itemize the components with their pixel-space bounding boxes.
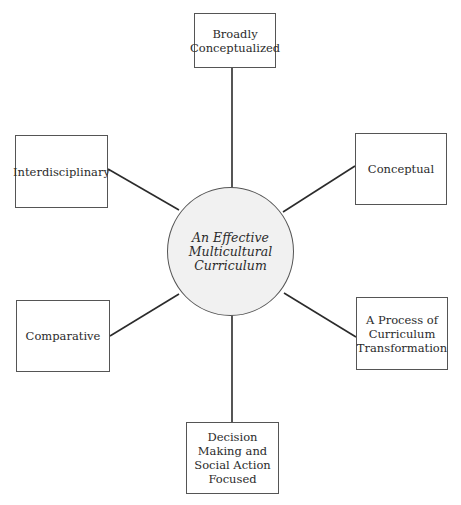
node-label: Broadly Conceptualized (190, 27, 280, 55)
node-label: Interdisciplinary (13, 165, 110, 179)
node-curriculum-transformation: A Process of Curriculum Transformation (356, 297, 448, 370)
center-hub: An Effective Multicultural Curriculum (167, 187, 294, 316)
connector-upper-right (283, 166, 355, 212)
node-label: Decision Making and Social Action Focuse… (191, 430, 274, 486)
center-hub-label: An Effective Multicultural Curriculum (182, 231, 279, 273)
node-label: A Process of Curriculum Transformation (357, 313, 447, 355)
node-label: Conceptual (368, 162, 434, 176)
node-interdisciplinary: Interdisciplinary (15, 135, 108, 208)
node-broadly-conceptualized: Broadly Conceptualized (194, 13, 276, 68)
connector-lower-right (284, 293, 356, 337)
node-decision-making: Decision Making and Social Action Focuse… (186, 422, 279, 494)
node-conceptual: Conceptual (355, 133, 447, 205)
connector-upper-left (108, 169, 179, 210)
node-comparative: Comparative (16, 300, 110, 372)
connector-lower-left (110, 294, 179, 336)
node-label: Comparative (26, 329, 101, 343)
